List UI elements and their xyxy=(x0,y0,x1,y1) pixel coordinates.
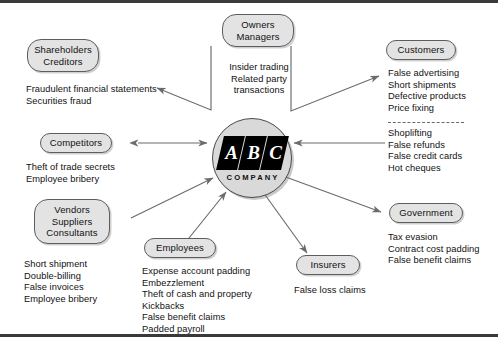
node-insurers[interactable]: Insurers xyxy=(296,255,360,275)
node-insurers-label: Insurers xyxy=(310,259,345,271)
item-competitors-1: Theft of trade secrets xyxy=(26,162,115,174)
items-government: Tax evasion Contract cost padding False … xyxy=(388,232,480,267)
logo-letter-c: C xyxy=(265,143,286,162)
node-employees-label: Employees xyxy=(156,242,204,254)
item-employees-3: Theft of cash and property xyxy=(142,289,252,301)
node-vendors-line-2: Suppliers xyxy=(52,216,93,228)
items-customers-lower: Shoplifting False refunds False credit c… xyxy=(388,128,462,174)
item-employees-6: Padded payroll xyxy=(142,324,252,336)
items-shareholders-creditors: Fraudulent financial statements Securiti… xyxy=(26,84,157,107)
node-vendors-line-3: Consultants xyxy=(46,227,97,239)
item-vendors-4: Employee bribery xyxy=(24,294,97,306)
connector-owners-to-customers xyxy=(291,46,379,111)
item-employees-5: False benefit claims xyxy=(142,312,252,324)
abc-company-logo: A B C COMPANY xyxy=(212,118,292,198)
item-customers-3: Defective products xyxy=(388,91,466,103)
item-insurers-1: False loss claims xyxy=(294,285,366,297)
item-owners-3: transactions xyxy=(214,85,304,97)
items-insurers: False loss claims xyxy=(294,285,366,297)
node-customers[interactable]: Customers xyxy=(386,40,456,60)
item-customers-6: False refunds xyxy=(388,140,462,152)
item-shareholders-1: Fraudulent financial statements xyxy=(26,84,157,96)
items-employees: Expense account padding Embezzlement The… xyxy=(142,266,252,336)
item-owners-1: Insider trading xyxy=(214,62,304,74)
item-government-2: Contract cost padding xyxy=(388,244,480,256)
items-competitors: Theft of trade secrets Employee bribery xyxy=(26,162,115,185)
node-competitors[interactable]: Competitors xyxy=(40,133,112,153)
items-vendors: Short shipment Double-billing False invo… xyxy=(24,259,97,305)
node-shareholders-creditors[interactable]: Shareholders Creditors xyxy=(27,39,99,72)
item-owners-2: Related party xyxy=(214,74,304,86)
item-government-1: Tax evasion xyxy=(388,232,480,244)
item-vendors-2: Double-billing xyxy=(24,271,97,283)
logo-letter-b: B xyxy=(243,143,264,162)
node-competitors-label: Competitors xyxy=(50,137,102,149)
logo-letter-slabs: A B C xyxy=(219,136,285,170)
logo-wordmark: COMPANY xyxy=(224,173,279,182)
item-customers-2: Short shipments xyxy=(388,80,466,92)
connector-vendors-to-abc xyxy=(131,178,213,218)
node-government[interactable]: Government xyxy=(389,203,463,223)
connector-abc-to-government xyxy=(283,176,381,212)
node-shareholders-line-1: Shareholders xyxy=(34,44,92,56)
item-government-3: False benefit claims xyxy=(388,255,480,267)
node-owners-managers-line-1: Owners xyxy=(241,19,274,31)
node-owners-managers[interactable]: Owners Managers xyxy=(222,14,294,47)
item-employees-4: Kickbacks xyxy=(142,301,252,313)
item-vendors-1: Short shipment xyxy=(24,259,97,271)
item-customers-8: Hot cheques xyxy=(388,163,462,175)
item-customers-7: False credit cards xyxy=(388,151,462,163)
item-shareholders-2: Securities fraud xyxy=(26,96,157,108)
logo-letter-a: A xyxy=(221,143,242,162)
fraud-diagram-figure: A B C COMPANY Owners Managers Insider tr… xyxy=(0,0,498,351)
items-customers-upper: False advertising Short shipments Defect… xyxy=(388,68,466,114)
item-competitors-2: Employee bribery xyxy=(26,174,115,186)
item-customers-4: Price fixing xyxy=(388,103,466,115)
node-customers-label: Customers xyxy=(398,44,445,56)
item-employees-1: Expense account padding xyxy=(142,266,252,278)
node-vendors-line-1: Vendors xyxy=(54,204,90,216)
node-government-label: Government xyxy=(399,207,452,219)
connector-owners-to-shareholders xyxy=(157,46,211,110)
node-shareholders-line-2: Creditors xyxy=(43,56,82,68)
item-employees-2: Embezzlement xyxy=(142,278,252,290)
customers-list-divider xyxy=(388,122,464,123)
item-vendors-3: False invoices xyxy=(24,282,97,294)
item-customers-5: Shoplifting xyxy=(388,128,462,140)
items-owners-managers: Insider trading Related party transactio… xyxy=(214,62,304,97)
connector-abc-to-insurers xyxy=(263,192,307,253)
item-customers-1: False advertising xyxy=(388,68,466,80)
node-employees[interactable]: Employees xyxy=(144,238,216,258)
node-vendors-suppliers-consultants[interactable]: Vendors Suppliers Consultants xyxy=(34,199,110,244)
node-owners-managers-line-2: Managers xyxy=(236,31,279,43)
